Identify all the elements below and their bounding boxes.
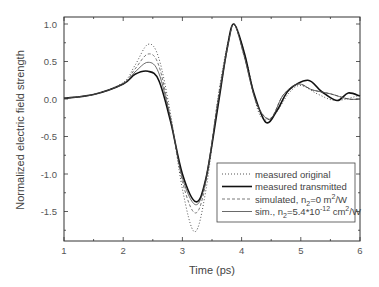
x-axis-label: Time (ps) bbox=[189, 264, 235, 276]
y-tick-label: 1.0 bbox=[44, 19, 57, 30]
legend: measured original measured transmitted s… bbox=[217, 163, 361, 222]
y-tick-label: 0.5 bbox=[44, 56, 57, 67]
chart-canvas: 123456 1.00.50.0-0.5-1.0-1.5 Time (ps) N… bbox=[0, 0, 379, 287]
legend-label-measured-original: measured original bbox=[255, 169, 331, 180]
y-tick-label: 0.0 bbox=[44, 94, 57, 105]
x-tick-label: 1 bbox=[61, 245, 66, 256]
x-tick-label: 6 bbox=[357, 245, 362, 256]
y-tick-label: -1.5 bbox=[41, 206, 57, 217]
x-tick-label: 2 bbox=[121, 245, 126, 256]
legend-label-sim-n2: sim., n2=5.4*10-12 cm2/W bbox=[255, 205, 361, 219]
y-tick-label: -1.0 bbox=[41, 169, 57, 180]
x-tick-label: 5 bbox=[298, 245, 303, 256]
legend-label-measured-transmitted: measured transmitted bbox=[255, 181, 347, 192]
y-axis-label: Normalized electric field strength bbox=[14, 50, 26, 210]
x-tick-label: 3 bbox=[180, 245, 185, 256]
x-tick-label: 4 bbox=[239, 245, 244, 256]
y-tick-label: -0.5 bbox=[41, 131, 57, 142]
